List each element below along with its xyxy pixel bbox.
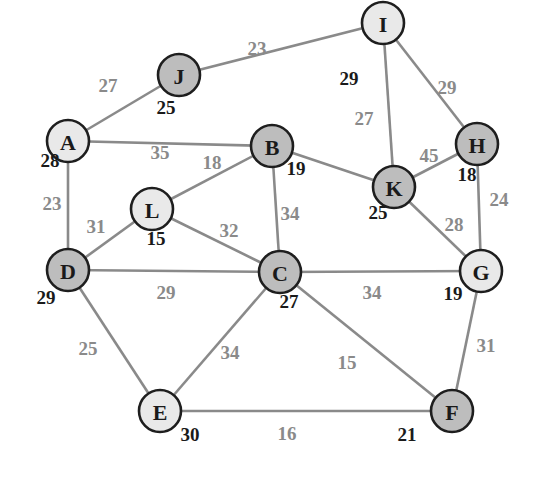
node-value-k: 25: [369, 202, 388, 223]
node-value-d: 29: [37, 287, 56, 308]
node-label: J: [174, 64, 185, 89]
node-label: L: [145, 198, 160, 223]
edge-c-g: [280, 271, 481, 272]
node-values-layer: 281927293021191829252515: [37, 68, 477, 445]
edges-layer: [68, 23, 481, 411]
edge-d-c: [68, 270, 280, 272]
node-d: D: [47, 249, 89, 291]
edge-i-h: [383, 23, 477, 144]
node-e: E: [139, 390, 181, 432]
node-c: C: [259, 251, 301, 293]
node-label: D: [60, 259, 76, 284]
edge-weight-d-e: 25: [79, 338, 98, 359]
node-value-a: 28: [41, 150, 60, 171]
node-j: J: [158, 54, 200, 96]
node-label: B: [265, 135, 280, 160]
edge-weight-d-c: 29: [157, 282, 176, 303]
node-value-j: 25: [157, 97, 176, 118]
node-value-e: 30: [181, 424, 200, 445]
edge-weight-g-f: 31: [477, 335, 496, 356]
node-l: L: [131, 188, 173, 230]
edge-weight-e-f: 16: [278, 423, 297, 444]
node-label: G: [472, 260, 489, 285]
node-label: F: [445, 400, 458, 425]
edge-weight-j-i: 23: [248, 38, 267, 59]
edge-weight-a-j: 27: [99, 75, 119, 96]
node-value-g: 19: [444, 283, 463, 304]
node-label: K: [385, 176, 402, 201]
node-value-h: 18: [458, 164, 477, 185]
edge-weight-k-g: 28: [445, 214, 464, 235]
node-value-i: 29: [340, 68, 359, 89]
node-label: C: [272, 261, 288, 286]
edge-weight-b-l: 18: [203, 152, 222, 173]
edge-weight-l-c: 32: [220, 220, 239, 241]
edge-weight-i-h: 29: [438, 77, 457, 98]
node-value-b: 19: [287, 158, 306, 179]
node-label: H: [468, 133, 485, 158]
node-value-f: 21: [398, 424, 417, 445]
edge-a-b: [68, 141, 272, 146]
node-h: H: [456, 123, 498, 165]
node-i: I: [362, 2, 404, 44]
edge-weights-layer: 2723352327291845343132282429342534153116: [43, 38, 510, 444]
edge-weight-h-g: 24: [490, 189, 510, 210]
edge-i-k: [383, 23, 394, 187]
graph-diagram: 2723352327291845343132282429342534153116…: [0, 0, 546, 493]
node-g: G: [460, 250, 502, 292]
node-value-c: 27: [280, 291, 300, 312]
nodes-layer: ABCDEFGHIJKL: [47, 2, 502, 432]
node-value-l: 15: [147, 228, 166, 249]
edge-weight-a-b: 35: [151, 142, 170, 163]
edge-weight-i-k: 27: [355, 108, 375, 129]
node-f: F: [431, 390, 473, 432]
edge-weight-l-d: 31: [87, 216, 106, 237]
edge-weight-c-f: 15: [338, 352, 357, 373]
edge-weight-k-h: 45: [420, 145, 439, 166]
edge-weight-b-c: 34: [281, 203, 301, 224]
node-label: I: [379, 12, 388, 37]
node-label: E: [153, 400, 168, 425]
edge-weight-c-e: 34: [221, 342, 241, 363]
edge-weight-a-d: 23: [43, 193, 62, 214]
edge-weight-c-g: 34: [363, 282, 383, 303]
node-label: A: [60, 130, 76, 155]
